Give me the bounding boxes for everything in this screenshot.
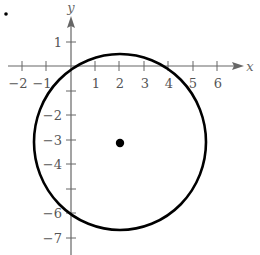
x-tick-label: 1 xyxy=(92,76,100,91)
circle-graph: −2 −1 1 2 3 4 5 6 x 1 −2 −3 −4 −6 −7 y xyxy=(0,0,260,255)
x-tick-label: 4 xyxy=(165,76,173,91)
y-tick-label: 1 xyxy=(54,35,62,50)
x-tick-label: 6 xyxy=(214,76,222,91)
y-tick-label: −3 xyxy=(43,133,62,148)
x-tick-label: 3 xyxy=(141,76,149,91)
x-tick-label: −2 xyxy=(8,76,27,91)
y-axis-label: y xyxy=(66,0,75,15)
y-tick-label: −6 xyxy=(43,206,62,221)
y-tick-label: −4 xyxy=(43,157,62,172)
x-axis-label: x xyxy=(246,59,254,74)
center-point xyxy=(116,139,124,147)
x-tick-label: 2 xyxy=(116,76,124,91)
x-axis xyxy=(8,61,244,71)
y-axis xyxy=(66,16,76,255)
y-tick-label: −2 xyxy=(43,108,62,123)
x-tick-label: 5 xyxy=(189,76,197,91)
y-tick-label: −7 xyxy=(43,231,62,246)
x-tick-label: −1 xyxy=(32,76,51,91)
bullet-mark xyxy=(4,12,8,16)
